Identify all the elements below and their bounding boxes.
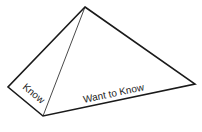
pyramid-diagram: Know Want to Know	[0, 0, 202, 132]
pyramid-svg: Know Want to Know	[0, 0, 202, 132]
